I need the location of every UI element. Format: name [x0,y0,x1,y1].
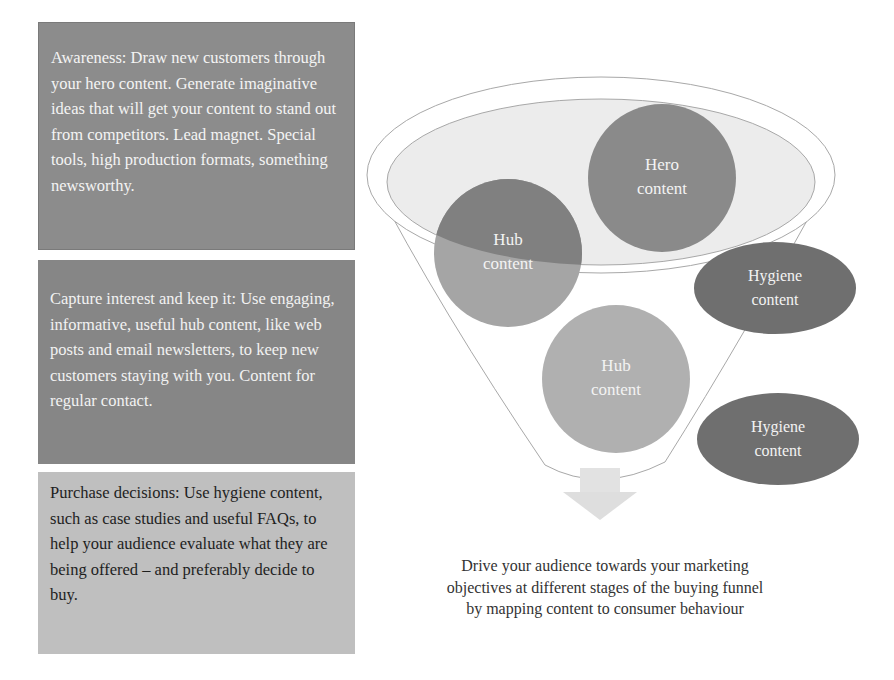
hygiene-1-label-line1: Hygiene [730,264,820,288]
hub-bottom-label-line1: Hub [574,354,658,378]
caption-line1: Drive your audience towards your marketi… [380,555,830,577]
hub-bottom-label: Hub content [574,354,658,402]
hub-top-label: Hub content [466,228,550,276]
hero-label-line1: Hero [620,153,704,177]
hero-label-line2: content [620,177,704,201]
caption-line3: by mapping content to consumer behaviour [380,598,830,620]
hygiene-2-label-line2: content [733,439,823,463]
hub-top-label-line1: Hub [466,228,550,252]
hygiene-1-label-line2: content [730,288,820,312]
funnel-caption: Drive your audience towards your marketi… [380,555,830,620]
hygiene-2-label-line1: Hygiene [733,415,823,439]
hygiene-label-1: Hygiene content [730,264,820,312]
hub-top-label-line2: content [466,252,550,276]
hub-bottom-label-line2: content [574,378,658,402]
hygiene-label-2: Hygiene content [733,415,823,463]
hero-label: Hero content [620,153,704,201]
caption-line2: objectives at different stages of the bu… [380,577,830,599]
